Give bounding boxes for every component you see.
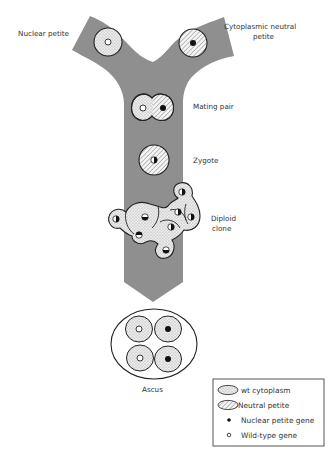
cytoplasmic-neutral-petite-cell: [179, 29, 207, 57]
nuclear-petite-cell: [94, 28, 122, 56]
diploid-nucleus: [175, 209, 181, 215]
legend-label: Nuclear petite gene: [241, 416, 315, 425]
diploid-nucleus: [188, 214, 194, 220]
zygote: [139, 145, 169, 175]
legend-item-nuclear-petite-gene: Nuclear petite gene: [227, 416, 314, 425]
diploid-nucleus: [136, 232, 142, 238]
legend: wt cytoplasm Neutral petite Nuclear peti…: [213, 379, 324, 446]
stippled-ellipse-icon: [218, 385, 238, 394]
diploid-nucleus: [179, 189, 185, 195]
spore-nuclear-petite: [155, 316, 182, 342]
label-diploid-clone-line1: Diploid: [211, 214, 236, 223]
label-cytoplasmic-neutral-petite-line1: Cytoplasmic neutral: [224, 22, 296, 31]
open-dot-icon: [227, 433, 231, 437]
diploid-nucleus: [142, 214, 148, 220]
legend-label: Neutral petite: [238, 401, 290, 410]
filled-dot-icon: [227, 418, 231, 422]
legend-label: Wild-type gene: [241, 431, 297, 440]
diploid-nucleus: [113, 216, 119, 222]
legend-item-wt-cytoplasm: wt cytoplasm: [218, 385, 290, 395]
yeast-cross-diagram: Nuclear petite Cytoplasmic neutral petit…: [0, 0, 334, 456]
spore-nuclear-petite: [155, 346, 182, 372]
label-diploid-clone-line2: clone: [212, 224, 232, 233]
label-mating-pair: Mating pair: [193, 102, 234, 111]
ascus: [111, 309, 197, 379]
diploid-nucleus: [163, 247, 169, 253]
label-ascus: Ascus: [142, 385, 163, 394]
legend-item-neutral-petite: Neutral petite: [218, 400, 290, 410]
diploid-nucleus: [168, 224, 174, 230]
spore-wild-type: [127, 345, 154, 371]
legend-label: wt cytoplasm: [241, 386, 290, 395]
label-nuclear-petite: Nuclear petite: [18, 29, 70, 38]
label-cytoplasmic-neutral-petite-line2: petite: [253, 32, 275, 41]
hatched-ellipse-icon: [218, 400, 238, 409]
mating-pair: [132, 94, 174, 120]
label-zygote: Zygote: [193, 156, 219, 165]
spore-wild-type: [126, 316, 153, 342]
